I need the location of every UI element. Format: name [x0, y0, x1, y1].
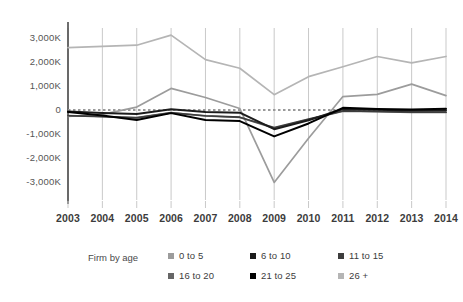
legend-item-26-plus[interactable]: 26 +: [338, 270, 368, 281]
plot-area: 3,000K2,000K1,000K0-1,000K-2,000K-3,000K…: [0, 0, 455, 235]
legend-title: Firm by age: [88, 252, 138, 263]
legend-item-label: 21 to 25: [261, 270, 296, 281]
legend-item-6-to-10[interactable]: 6 to 10: [250, 250, 291, 261]
y-tick-label-3: 0: [56, 104, 61, 115]
y-tick-label-5: -2,000K: [26, 152, 61, 163]
legend-item-label: 6 to 10: [261, 250, 291, 261]
x-tick-label-2014: 2014: [426, 212, 463, 224]
legend-item-label: 0 to 5: [179, 250, 203, 261]
line-chart-svg: [0, 0, 455, 235]
legend-swatch-icon: [250, 273, 256, 279]
y-tick-label-0: 3,000K: [30, 32, 61, 43]
legend-item-label: 26 +: [349, 270, 368, 281]
legend-swatch-icon: [250, 253, 256, 259]
chart-legend: Firm by age 0 to 56 to 1011 to 1516 to 2…: [0, 248, 455, 302]
legend-item-16-to-20[interactable]: 16 to 20: [168, 270, 214, 281]
legend-swatch-icon: [168, 273, 174, 279]
legend-item-label: 16 to 20: [179, 270, 214, 281]
legend-swatch-icon: [168, 253, 174, 259]
y-tick-label-1: 2,000K: [30, 56, 61, 67]
y-tick-label-6: -3,000K: [26, 176, 61, 187]
y-tick-label-4: -1,000K: [26, 128, 61, 139]
series-line-0-to-5: [68, 84, 446, 182]
legend-item-11-to-15[interactable]: 11 to 15: [338, 250, 383, 261]
legend-swatch-icon: [338, 273, 344, 279]
y-tick-label-2: 1,000K: [30, 80, 61, 91]
series-line-26-+: [68, 35, 446, 95]
legend-swatch-icon: [338, 253, 344, 259]
legend-item-21-to-25[interactable]: 21 to 25: [250, 270, 296, 281]
legend-item-0-to-5[interactable]: 0 to 5: [168, 250, 203, 261]
legend-item-label: 11 to 15: [349, 250, 383, 261]
